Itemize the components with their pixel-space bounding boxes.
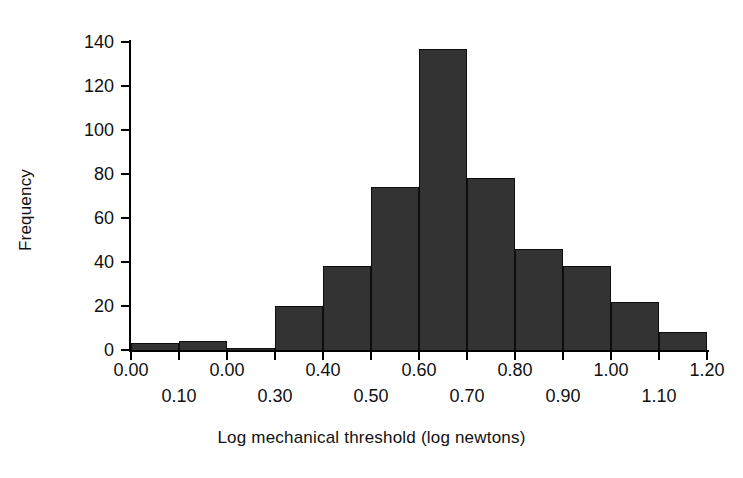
- y-axis-tick-mark: [121, 217, 130, 219]
- x-axis-tick-mark: [658, 352, 660, 360]
- x-axis-tick-label: 0.70: [422, 386, 512, 407]
- x-axis-tick-label: 0.50: [326, 386, 416, 407]
- x-axis-title: Log mechanical threshold (log newtons): [0, 428, 743, 448]
- y-axis-tick-mark: [121, 129, 130, 131]
- x-axis-tick-mark: [178, 352, 180, 360]
- x-axis-tick-label: 1.00: [566, 360, 656, 381]
- y-axis-tick-mark: [121, 261, 130, 263]
- y-axis-tick-mark: [121, 85, 130, 87]
- x-axis-tick-mark: [130, 352, 132, 360]
- x-axis-tick-mark: [706, 352, 708, 360]
- x-axis-tick-labels: 0.000.000.400.600.801.001.200.100.300.50…: [0, 0, 743, 478]
- y-axis-tick-mark: [121, 305, 130, 307]
- y-axis-tick-mark: [121, 41, 130, 43]
- x-axis-tick-mark: [610, 352, 612, 360]
- x-axis-tick-mark: [274, 352, 276, 360]
- y-axis-tick-mark: [121, 173, 130, 175]
- x-axis-tick-mark: [226, 352, 228, 360]
- x-axis-tick-mark: [514, 352, 516, 360]
- histogram-figure: Frequency 140120100806040200 0.000.000.4…: [0, 0, 743, 478]
- x-axis-tick-mark: [370, 352, 372, 360]
- x-axis-tick-label: 0.30: [230, 386, 320, 407]
- x-axis-tick-label: 0.40: [278, 360, 368, 381]
- x-axis-tick-label: 0.80: [470, 360, 560, 381]
- x-axis-tick-label: 0.60: [374, 360, 464, 381]
- x-axis-tick-mark: [562, 352, 564, 360]
- x-axis-tick-mark: [466, 352, 468, 360]
- x-axis-tick-mark: [322, 352, 324, 360]
- y-axis-tick-mark: [121, 349, 130, 351]
- x-axis-tick-label: 0.90: [518, 386, 608, 407]
- x-axis-tick-label: 1.20: [662, 360, 743, 381]
- x-axis-tick-label: 0.10: [134, 386, 224, 407]
- x-axis-tick-label: 1.10: [614, 386, 704, 407]
- x-axis-tick-label: 0.00: [182, 360, 272, 381]
- x-axis-tick-mark: [418, 352, 420, 360]
- x-axis-tick-label: 0.00: [86, 360, 176, 381]
